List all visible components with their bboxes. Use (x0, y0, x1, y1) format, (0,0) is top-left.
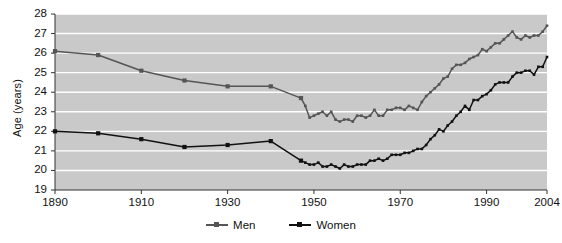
series-marker-women (395, 154, 398, 157)
legend-label-men: Men (233, 219, 255, 231)
series-marker-women (351, 165, 354, 168)
series-marker-men (546, 24, 549, 27)
series-marker-men (472, 56, 475, 59)
series-marker-men (343, 118, 346, 121)
series-marker-men (468, 58, 471, 61)
series-marker-men (481, 48, 484, 51)
series-marker-women (408, 152, 411, 155)
series-marker-women (96, 131, 100, 135)
series-marker-women (182, 145, 186, 149)
series-marker-men (304, 105, 307, 108)
series-marker-women (53, 129, 57, 133)
series-marker-women (537, 66, 540, 69)
series-marker-men (408, 105, 411, 108)
series-marker-women (299, 159, 303, 163)
series-marker-women (399, 154, 402, 157)
series-marker-women (446, 124, 449, 127)
series-marker-men (399, 107, 402, 110)
series-marker-women (442, 130, 445, 133)
series-marker-women (412, 150, 415, 153)
series-marker-men (299, 96, 303, 100)
series-marker-men (429, 91, 432, 94)
series-marker-women (360, 163, 363, 166)
series-marker-women (468, 109, 471, 112)
series-marker-women (269, 139, 273, 143)
series-marker-men (446, 75, 449, 78)
series-marker-women (403, 152, 406, 155)
series-marker-women (304, 161, 307, 164)
series-marker-women (369, 159, 372, 162)
series-marker-men (425, 95, 428, 98)
y-axis-title: Age (years) (11, 53, 23, 163)
series-marker-men (520, 38, 523, 41)
series-marker-men (364, 116, 367, 119)
series-marker-men (96, 53, 100, 57)
series-marker-men (395, 107, 398, 110)
series-marker-men (334, 118, 337, 121)
series-marker-women (511, 75, 514, 78)
series-marker-men (498, 42, 501, 45)
series-marker-men (451, 67, 454, 70)
series-marker-women (334, 165, 337, 168)
legend-swatch-women (289, 220, 311, 230)
series-marker-women (438, 128, 441, 131)
series-marker-women (421, 148, 424, 151)
series-marker-men (524, 34, 527, 37)
series-marker-women (520, 71, 523, 74)
series-marker-men (330, 110, 333, 113)
series-marker-men (455, 64, 458, 67)
y-tick-label: 25 (25, 67, 47, 79)
legend-swatch-men (206, 220, 228, 230)
series-marker-men (269, 84, 273, 88)
series-marker-women (429, 138, 432, 141)
series-marker-men (53, 49, 57, 53)
series-marker-men (308, 116, 311, 119)
series-marker-men (317, 112, 320, 115)
series-marker-women (139, 137, 143, 141)
series-marker-women (347, 165, 350, 168)
series-marker-women (472, 99, 475, 102)
series-marker-men (494, 42, 497, 45)
series-marker-women (455, 114, 458, 117)
y-tick-label: 20 (25, 164, 47, 176)
series-marker-men (226, 84, 230, 88)
x-tick-label: 2004 (522, 197, 562, 209)
series-marker-women (524, 69, 527, 72)
series-marker-men (390, 109, 393, 112)
x-tick-label: 1970 (375, 197, 425, 209)
series-marker-men (503, 38, 506, 41)
series-marker-men (347, 118, 350, 121)
series-marker-men (182, 78, 186, 82)
series-marker-men (421, 101, 424, 104)
series-marker-men (416, 109, 419, 112)
series-marker-women (416, 148, 419, 151)
legend-item-men[interactable]: Men (206, 219, 255, 231)
series-marker-men (373, 109, 376, 112)
series-marker-men (537, 34, 540, 37)
series-marker-men (490, 46, 493, 49)
series-marker-men (528, 36, 531, 39)
series-marker-women (373, 159, 376, 162)
series-marker-women (382, 159, 385, 162)
series-marker-men (412, 107, 415, 110)
legend-item-women[interactable]: Women (289, 219, 355, 231)
y-tick-label: 26 (25, 47, 47, 59)
series-marker-men (464, 62, 467, 65)
series-marker-men (442, 77, 445, 80)
y-tick-label: 19 (25, 184, 47, 196)
series-marker-men (403, 109, 406, 112)
series-marker-men (485, 50, 488, 53)
series-marker-men (507, 34, 510, 37)
series-marker-women (477, 99, 480, 102)
chart-figure: Age (years) 19202122232425262728 1890191… (0, 0, 562, 243)
series-marker-men (139, 69, 143, 73)
series-marker-women (481, 95, 484, 98)
series-marker-women (485, 93, 488, 96)
series-marker-women (425, 144, 428, 147)
series-marker-women (326, 165, 329, 168)
x-tick-label: 1930 (203, 197, 253, 209)
series-marker-women (317, 161, 320, 164)
series-marker-women (308, 163, 311, 166)
series-marker-men (382, 114, 385, 117)
series-marker-men (356, 114, 359, 117)
